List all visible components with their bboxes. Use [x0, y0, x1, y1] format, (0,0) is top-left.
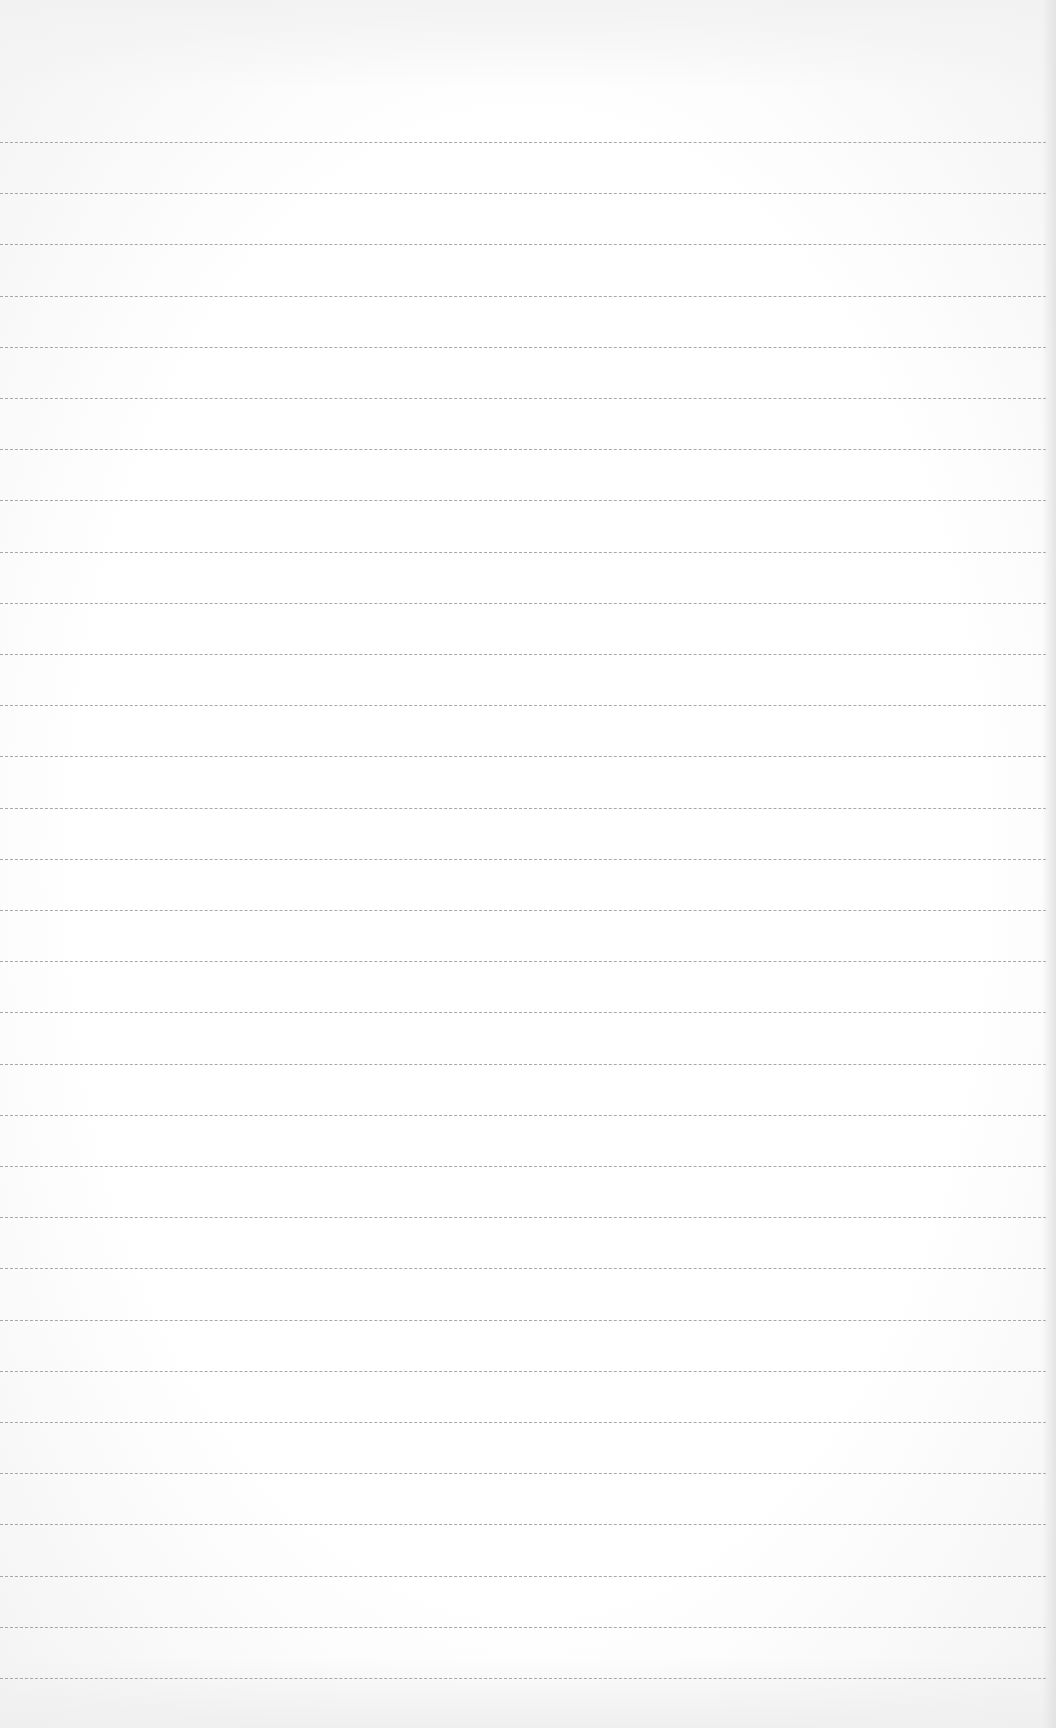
ruled-line [0, 756, 1046, 757]
right-edge-shadow [1042, 0, 1056, 1728]
ruled-line [0, 398, 1046, 399]
ruled-line [0, 1115, 1046, 1116]
ruled-line [0, 961, 1046, 962]
ruled-line [0, 1012, 1046, 1013]
ruled-line [0, 193, 1046, 194]
ruled-line [0, 244, 1046, 245]
ruled-line [0, 603, 1046, 604]
ruled-line [0, 1627, 1046, 1628]
ruled-line [0, 1064, 1046, 1065]
ruled-line [0, 1166, 1046, 1167]
ruled-line [0, 347, 1046, 348]
ruled-line [0, 808, 1046, 809]
ruled-line [0, 910, 1046, 911]
ruled-line [0, 859, 1046, 860]
ruled-line [0, 1678, 1046, 1679]
ruled-line [0, 654, 1046, 655]
ruled-line [0, 1422, 1046, 1423]
ruled-line [0, 1268, 1046, 1269]
ruled-line [0, 1320, 1046, 1321]
ruled-line [0, 296, 1046, 297]
ruled-line [0, 142, 1046, 143]
ruled-line [0, 1371, 1046, 1372]
bottom-shading [0, 1658, 1056, 1728]
ruled-line [0, 705, 1046, 706]
ruled-line [0, 1576, 1046, 1577]
ruled-line [0, 1217, 1046, 1218]
ruled-line [0, 500, 1046, 501]
ruled-line [0, 552, 1046, 553]
ruled-line [0, 1473, 1046, 1474]
ruled-line [0, 1524, 1046, 1525]
ruled-line [0, 449, 1046, 450]
lined-paper-sheet [0, 0, 1056, 1728]
top-shading [0, 0, 1056, 90]
